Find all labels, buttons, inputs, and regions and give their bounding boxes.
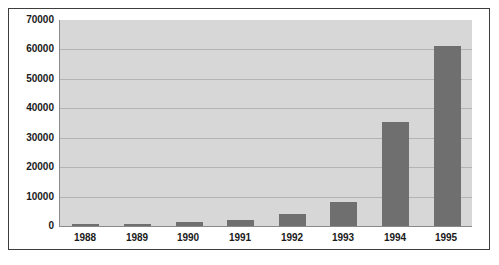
gridline-10000 — [60, 197, 472, 198]
y-tick-label-0: 0 — [2, 221, 54, 231]
bar-1993 — [330, 202, 357, 226]
bar-1992 — [279, 214, 306, 226]
bar-1995 — [434, 46, 461, 226]
x-tick-label-1990: 1990 — [162, 232, 214, 244]
gridline-60000 — [60, 49, 472, 50]
y-axis-tick-labels: 700006000050000400003000020000100000 — [0, 0, 54, 265]
y-tick-label-30000: 30000 — [2, 133, 54, 143]
x-tick-label-1995: 1995 — [420, 232, 472, 244]
x-tick-label-1992: 1992 — [266, 232, 318, 244]
gridline-30000 — [60, 138, 472, 139]
x-tick-label-1989: 1989 — [111, 232, 163, 244]
x-tick-label-1988: 1988 — [59, 232, 111, 244]
y-tick-label-50000: 50000 — [2, 74, 54, 84]
x-tick-label-1991: 1991 — [214, 232, 266, 244]
y-tick-label-10000: 10000 — [2, 192, 54, 202]
y-tick-label-40000: 40000 — [2, 103, 54, 113]
gridline-40000 — [60, 108, 472, 109]
gridline-20000 — [60, 167, 472, 168]
x-tick-label-1994: 1994 — [369, 232, 421, 244]
y-axis-line — [59, 20, 60, 227]
x-axis-tick-labels: 19881989199019911992199319941995 — [59, 232, 472, 248]
x-tick-label-1993: 1993 — [317, 232, 369, 244]
bar-chart-figure: 700006000050000400003000020000100000 198… — [0, 0, 499, 265]
bar-1994 — [382, 122, 409, 226]
gridline-50000 — [60, 79, 472, 80]
y-tick-label-60000: 60000 — [2, 44, 54, 54]
y-tick-label-70000: 70000 — [2, 15, 54, 25]
y-tick-label-20000: 20000 — [2, 162, 54, 172]
plot-area — [59, 20, 472, 226]
x-axis-line — [59, 226, 472, 227]
